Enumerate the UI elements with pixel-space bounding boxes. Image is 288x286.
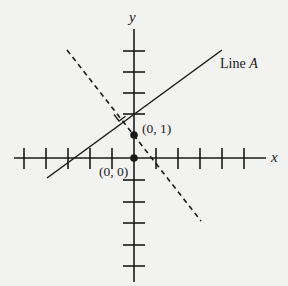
point-label-0-1: (0, 1) — [142, 122, 171, 136]
coordinate-diagram — [0, 0, 288, 286]
y-axis-label: y — [129, 10, 136, 25]
point-label-origin: (0, 0) — [99, 165, 128, 179]
line-a-label: Line A — [220, 57, 258, 71]
point-0-1 — [130, 131, 138, 139]
line-a-label-name: A — [249, 56, 258, 71]
point-origin — [130, 154, 138, 162]
line-a-label-prefix: Line — [220, 56, 249, 71]
x-axis-label: x — [271, 150, 278, 165]
